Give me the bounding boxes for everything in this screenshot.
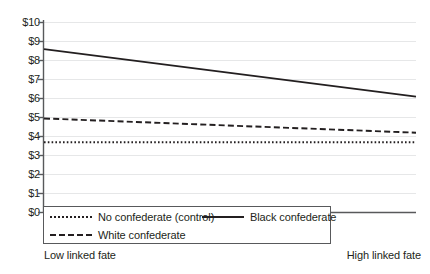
legend-swatch-dashed-icon (50, 230, 92, 240)
legend-row: No confederate (control) Black confedera… (44, 207, 330, 226)
legend-item-no-confederate: No confederate (control) (50, 207, 214, 226)
data-series-group (44, 49, 416, 142)
legend: No confederate (control) Black confedera… (43, 206, 331, 244)
legend-label-no-confederate: No confederate (control) (98, 211, 214, 223)
series-line-white-confederate (44, 118, 416, 132)
gridlines (43, 23, 416, 194)
legend-item-white-confederate: White confederate (50, 225, 186, 244)
legend-swatch-solid-icon (202, 212, 244, 222)
legend-swatch-dotted-icon (50, 212, 92, 222)
y-axis-ticks (38, 23, 43, 213)
legend-row: White confederate (44, 225, 330, 244)
legend-item-black-confederate: Black confederate (202, 207, 336, 226)
x-tick-label-high: High linked fate (347, 249, 421, 261)
legend-label-white-confederate: White confederate (98, 229, 186, 241)
chart-container: $10 $9 $8 $7 $6 $5 $4 $3 $2 $1 $0 (0, 0, 430, 274)
legend-label-black-confederate: Black confederate (250, 211, 336, 223)
series-line-black-confederate (44, 49, 416, 97)
x-tick-label-low: Low linked fate (44, 249, 116, 261)
